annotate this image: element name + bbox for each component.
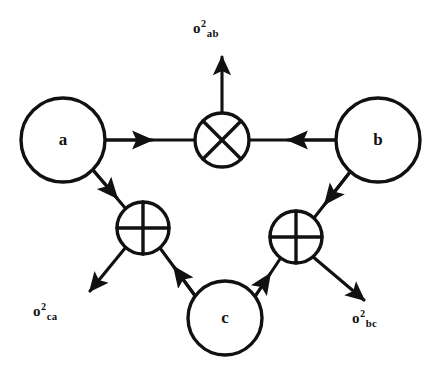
sigma-subscript-bc: bc [366, 317, 377, 329]
output-label-sigma-bc: o2bc [352, 310, 377, 327]
node-label-b: b [373, 130, 382, 149]
edge-c-to-adder-ca [160, 248, 196, 297]
sigma-subscript-ca: ca [47, 310, 58, 322]
node-circle-c[interactable]: c [188, 281, 262, 355]
edge-a-to-adder-ca [93, 170, 126, 209]
sigma-symbol-ab: o [193, 20, 201, 36]
node-circle-b[interactable]: b [336, 98, 420, 182]
node-adder-plus-icon-bc[interactable] [270, 211, 322, 263]
node-label-c: c [221, 308, 229, 327]
sigma-superscript-ab: 2 [201, 18, 206, 29]
sigma-subscript-ab: ab [207, 27, 219, 39]
node-adder-plus-icon-ca[interactable] [117, 202, 169, 254]
edge-adder-ca-to-sigma-ca [90, 247, 126, 291]
diagram-svg: a b c [0, 0, 445, 369]
edge-adder-bc-to-sigma-bc [312, 256, 364, 300]
edge-c-to-adder-bc [254, 259, 280, 298]
node-multiplier-cross-icon[interactable] [195, 113, 249, 167]
sigma-superscript-ca: 2 [41, 301, 46, 312]
sigma-symbol-ca: o [33, 303, 41, 319]
output-label-sigma-ca: o2ca [33, 303, 57, 320]
output-label-sigma-ab: o2ab [193, 20, 219, 37]
node-circle-a[interactable]: a [21, 98, 105, 182]
sigma-symbol-bc: o [352, 310, 360, 326]
sigma-superscript-bc: 2 [360, 308, 365, 319]
edge-b-to-adder-bc [314, 172, 350, 218]
node-label-a: a [59, 130, 68, 149]
diagram-canvas: a b c o2ab [0, 0, 445, 369]
